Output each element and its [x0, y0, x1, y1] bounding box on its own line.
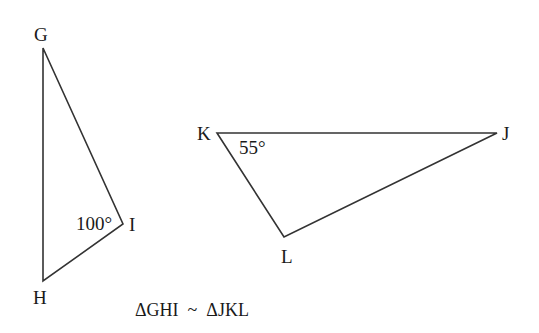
- similarity-statement: ΔGHI ~ ΔJKL: [135, 300, 249, 320]
- angle-label-i: 100°: [76, 213, 112, 234]
- vertex-label-j: J: [502, 123, 509, 144]
- similar-triangles-diagram: G H I 100° K J L 55° ΔGHI ~ ΔJKL: [0, 0, 539, 333]
- vertex-label-h: H: [33, 287, 47, 308]
- vertex-label-l: L: [281, 246, 293, 267]
- vertex-label-g: G: [34, 24, 48, 45]
- triangle-ghi: [43, 48, 123, 281]
- vertex-label-k: K: [197, 123, 211, 144]
- vertex-label-i: I: [129, 214, 135, 235]
- angle-label-k: 55°: [239, 137, 266, 158]
